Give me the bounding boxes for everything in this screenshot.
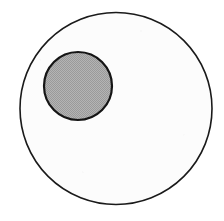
figure-canvas — [0, 0, 224, 221]
inner-circle — [44, 52, 112, 120]
outer-circle — [20, 13, 212, 205]
circles-diagram-svg — [0, 0, 224, 221]
